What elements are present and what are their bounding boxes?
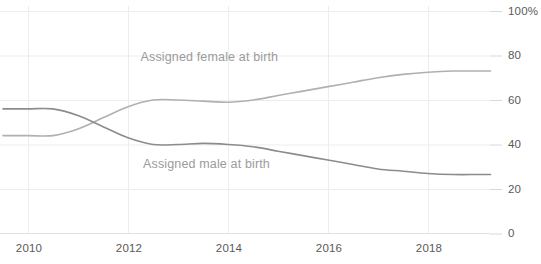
y-tick-label-60: 60	[508, 94, 521, 106]
x-tick-label-2014: 2014	[216, 242, 242, 254]
y-tick-label-40: 40	[508, 138, 521, 150]
y-tick-label-0: 0	[508, 227, 515, 239]
line-chart: 100% 80 60 40 20 0 2010 2012 2014 2016 2…	[0, 0, 541, 264]
y-axis-tick-marks	[490, 12, 502, 235]
x-tick-label-2018: 2018	[416, 242, 442, 254]
chart-plot-area	[0, 0, 541, 264]
y-tick-label-20: 20	[508, 183, 521, 195]
x-tick-label-2016: 2016	[316, 242, 342, 254]
y-tick-label-80: 80	[508, 49, 521, 61]
series-label-assigned-male-at-birth: Assigned male at birth	[143, 157, 270, 171]
series-label-assigned-female-at-birth: Assigned female at birth	[141, 50, 279, 64]
x-tick-label-2012: 2012	[116, 242, 142, 254]
x-tick-label-2010: 2010	[16, 242, 42, 254]
y-tick-label-100: 100%	[508, 5, 538, 17]
